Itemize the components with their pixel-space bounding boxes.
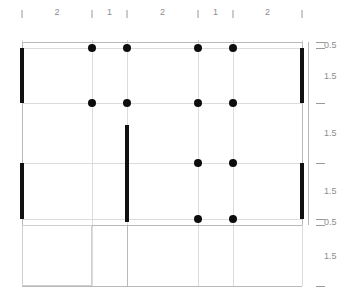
dimension-tick-right [316, 163, 325, 164]
column-node [123, 44, 131, 52]
shear-wall [125, 125, 129, 222]
column-node [123, 99, 131, 107]
column-node [229, 99, 237, 107]
shear-wall [20, 48, 24, 103]
dimension-label-right: 1.5 [324, 187, 337, 196]
dimension-tick-right [316, 103, 325, 104]
dimension-label-right: 0.5 [324, 41, 337, 50]
dimension-tick-top [198, 10, 199, 18]
lower-grid-extension-c [127, 225, 128, 286]
dimension-label-right: 1.5 [324, 251, 337, 260]
dimension-tick-top [22, 10, 23, 18]
grid-axis-horizontal [22, 48, 302, 49]
lower-slab-outline [22, 225, 92, 286]
dimension-witness-line-right [308, 42, 309, 225]
column-node [229, 215, 237, 223]
dimension-label-right: 1.5 [324, 71, 337, 80]
shear-wall [20, 163, 24, 219]
grid-axis-horizontal [22, 103, 302, 104]
dimension-tick-top [92, 10, 93, 18]
structural-framing-plan: 212120.51.51.51.50.51.5 [0, 0, 344, 307]
column-node [194, 44, 202, 52]
shear-wall [300, 48, 304, 103]
column-node [88, 99, 96, 107]
dimension-tick-top [233, 10, 234, 18]
dimension-label-right: 0.5 [324, 218, 337, 227]
column-node [229, 159, 237, 167]
dimension-label-top: 1 [213, 8, 218, 17]
dimension-tick-right [316, 286, 325, 287]
column-node [194, 99, 202, 107]
shear-wall [300, 163, 304, 219]
column-node [194, 215, 202, 223]
column-node [194, 159, 202, 167]
slab-edge-top [22, 42, 302, 43]
column-node [88, 44, 96, 52]
dimension-label-top: 2 [54, 8, 59, 17]
column-node [229, 44, 237, 52]
dimension-label-top: 1 [107, 8, 112, 17]
dimension-tick-top [302, 10, 303, 18]
grid-axis-horizontal [22, 219, 302, 220]
grid-axis-horizontal [22, 163, 302, 164]
dimension-label-top: 2 [160, 8, 165, 17]
lower-grid-extension-bottom [22, 286, 302, 287]
dimension-tick-top [127, 10, 128, 18]
dimension-label-top: 2 [265, 8, 270, 17]
dimension-label-right: 1.5 [324, 129, 337, 138]
